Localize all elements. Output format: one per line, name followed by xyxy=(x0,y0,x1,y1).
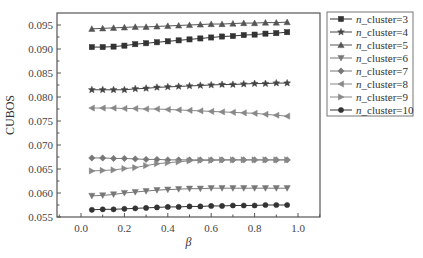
marker-square-icon xyxy=(144,41,149,46)
y-tick-label: 0.070 xyxy=(28,139,53,151)
x-tick-label: 0.2 xyxy=(118,222,132,234)
marker-circle-icon xyxy=(154,205,159,210)
marker-square-icon xyxy=(209,35,214,40)
marker-square-icon xyxy=(219,34,224,39)
x-tick-label: 0.0 xyxy=(74,222,88,234)
legend-label: n_cluster=7 xyxy=(356,65,409,77)
x-tick-label: 0.4 xyxy=(161,222,175,234)
y-axis: 0.0550.0600.0650.0700.0750.0800.0850.090… xyxy=(28,19,61,223)
legend-label: n_cluster=8 xyxy=(356,78,409,90)
y-tick-label: 0.085 xyxy=(28,67,53,79)
y-tick-label: 0.055 xyxy=(28,211,53,223)
marker-circle-icon xyxy=(241,203,246,208)
marker-square-icon xyxy=(338,16,343,21)
marker-square-icon xyxy=(111,44,116,49)
marker-square-icon xyxy=(252,32,257,37)
marker-circle-icon xyxy=(165,204,170,209)
legend-label: n_cluster=9 xyxy=(356,91,409,103)
marker-square-icon xyxy=(154,40,159,45)
legend-label: n_cluster=3 xyxy=(356,13,409,25)
marker-circle-icon xyxy=(89,207,94,212)
marker-circle-icon xyxy=(144,205,149,210)
marker-circle-icon xyxy=(176,204,181,209)
marker-square-icon xyxy=(165,39,170,44)
y-tick-label: 0.095 xyxy=(28,19,53,31)
y-tick-label: 0.090 xyxy=(28,43,53,55)
marker-square-icon xyxy=(89,44,94,49)
marker-square-icon xyxy=(274,31,279,36)
marker-square-icon xyxy=(100,44,105,49)
y-tick-label: 0.065 xyxy=(28,163,53,175)
marker-circle-icon xyxy=(263,202,268,207)
marker-circle-icon xyxy=(111,207,116,212)
y-axis-title: CUBOS xyxy=(3,95,17,135)
marker-square-icon xyxy=(263,31,268,36)
x-tick-label: 1.0 xyxy=(291,222,305,234)
legend-label: n_cluster=4 xyxy=(356,26,409,38)
marker-circle-icon xyxy=(122,206,127,211)
y-tick-label: 0.080 xyxy=(28,91,53,103)
legend-label: n_cluster=5 xyxy=(356,39,409,51)
marker-circle-icon xyxy=(252,203,257,208)
marker-circle-icon xyxy=(100,207,105,212)
marker-square-icon xyxy=(285,30,290,35)
marker-circle-icon xyxy=(338,107,343,112)
legend-label: n_cluster=10 xyxy=(356,104,414,116)
y-tick-label: 0.075 xyxy=(28,115,53,127)
marker-circle-icon xyxy=(285,202,290,207)
marker-square-icon xyxy=(241,32,246,37)
marker-square-icon xyxy=(198,36,203,41)
x-axis-title: β xyxy=(185,235,192,249)
marker-circle-icon xyxy=(198,204,203,209)
marker-circle-icon xyxy=(219,203,224,208)
x-tick-label: 0.6 xyxy=(204,222,218,234)
marker-circle-icon xyxy=(230,203,235,208)
marker-square-icon xyxy=(187,37,192,42)
marker-square-icon xyxy=(230,33,235,38)
legend-label: n_cluster=6 xyxy=(356,52,409,64)
marker-square-icon xyxy=(133,42,138,47)
marker-circle-icon xyxy=(133,206,138,211)
marker-circle-icon xyxy=(187,204,192,209)
marker-circle-icon xyxy=(274,202,279,207)
marker-square-icon xyxy=(122,43,127,48)
line-chart: 0.0550.0600.0650.0700.0750.0800.0850.090… xyxy=(0,0,423,258)
legend: n_cluster=3n_cluster=4n_cluster=5n_clust… xyxy=(327,12,414,116)
marker-square-icon xyxy=(176,38,181,43)
marker-circle-icon xyxy=(209,203,214,208)
y-tick-label: 0.060 xyxy=(28,187,53,199)
x-tick-label: 0.8 xyxy=(248,222,262,234)
